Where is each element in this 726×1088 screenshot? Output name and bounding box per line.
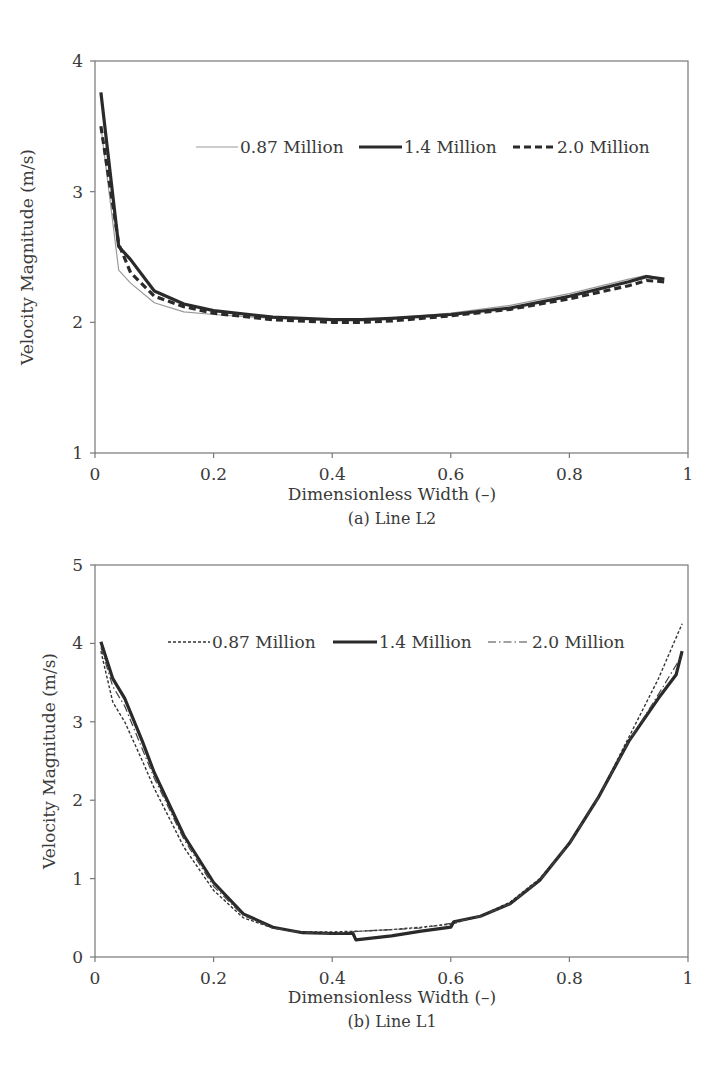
legend-label: 0.87 Million	[212, 632, 316, 652]
x-axis-ticks: 00.20.40.60.81	[90, 957, 694, 988]
y-tick-label: 1	[72, 443, 83, 463]
series-line	[101, 642, 682, 940]
series-line	[101, 647, 682, 933]
x-axis-title: Dimensionless Width (–)	[288, 484, 496, 504]
series-lines	[101, 624, 682, 940]
legend-label: 2.0 Million	[557, 137, 650, 157]
plot-frame	[95, 565, 688, 957]
y-tick-label: 4	[72, 51, 83, 71]
y-axis-title: Velocity Magnitude (m/s)	[39, 653, 59, 870]
x-axis-ticks: 00.20.40.60.81	[90, 453, 694, 484]
y-tick-label: 2	[72, 312, 83, 332]
x-tick-label: 0.8	[556, 968, 583, 988]
plot-frame	[95, 61, 688, 453]
y-tick-label: 3	[72, 182, 83, 202]
x-tick-label: 0	[90, 464, 101, 484]
x-tick-label: 1	[683, 968, 694, 988]
chart-line-l1: 012345 00.20.40.60.81 0.87 Million1.4 Mi…	[39, 555, 693, 1031]
chart-line-l2: 1234 00.20.40.60.81 0.87 Million1.4 Mill…	[17, 51, 693, 528]
y-axis-ticks: 1234	[72, 51, 95, 463]
figure: 1234 00.20.40.60.81 0.87 Million1.4 Mill…	[0, 0, 726, 1088]
x-tick-label: 0.6	[437, 968, 464, 988]
y-tick-label: 2	[72, 790, 83, 810]
x-tick-label: 0.2	[200, 968, 227, 988]
y-tick-label: 5	[72, 555, 83, 575]
series-lines	[101, 92, 664, 322]
x-tick-label: 0.4	[319, 464, 346, 484]
legend-label: 1.4 Million	[379, 632, 472, 652]
y-axis-ticks: 012345	[72, 555, 95, 967]
series-line	[101, 624, 682, 932]
chart-caption: (b) Line L1	[347, 1012, 436, 1031]
y-tick-label: 4	[72, 633, 83, 653]
x-tick-label: 0.6	[437, 464, 464, 484]
y-axis-title: Velocity Magnitude (m/s)	[17, 149, 37, 366]
legend-label: 0.87 Million	[240, 137, 344, 157]
x-tick-label: 0	[90, 968, 101, 988]
chart-caption: (a) Line L2	[348, 509, 437, 528]
series-line	[101, 92, 664, 319]
legend-label: 1.4 Million	[404, 137, 497, 157]
x-axis-title: Dimensionless Width (–)	[288, 987, 496, 1007]
legend: 0.87 Million1.4 Million2.0 Million	[168, 632, 625, 652]
y-tick-label: 1	[72, 869, 83, 889]
x-tick-label: 0.4	[319, 968, 346, 988]
x-tick-label: 0.8	[556, 464, 583, 484]
legend: 0.87 Million1.4 Million2.0 Million	[196, 137, 650, 157]
y-tick-label: 3	[72, 712, 83, 732]
x-tick-label: 1	[683, 464, 694, 484]
y-tick-label: 0	[72, 947, 83, 967]
x-tick-label: 0.2	[200, 464, 227, 484]
legend-label: 2.0 Million	[532, 632, 625, 652]
